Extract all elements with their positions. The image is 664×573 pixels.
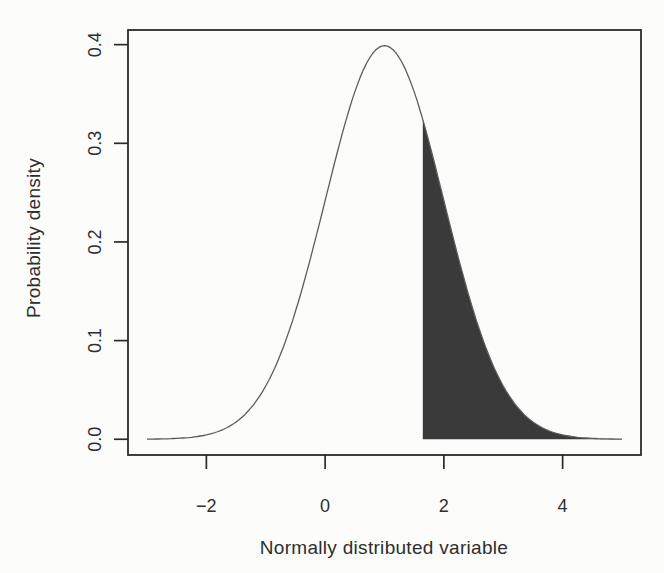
x-tick-label: 4	[558, 496, 568, 516]
x-tick-label: −2	[196, 496, 217, 516]
y-tick-label: 0.0	[85, 427, 105, 452]
density-plot-figure: −20240.00.10.20.30.4 Probability density…	[0, 0, 664, 573]
shaded-tail-area	[423, 120, 622, 440]
y-tick-label: 0.2	[85, 229, 105, 254]
y-tick-label: 0.3	[85, 131, 105, 156]
plot-canvas: −20240.00.10.20.30.4	[0, 0, 664, 573]
density-curve	[147, 46, 622, 439]
y-tick-label: 0.1	[85, 328, 105, 353]
x-axis-title: Normally distributed variable	[260, 537, 508, 559]
x-tick-label: 2	[439, 496, 449, 516]
y-axis-title: Probability density	[23, 158, 45, 318]
x-tick-label: 0	[320, 496, 330, 516]
y-tick-label: 0.4	[85, 32, 105, 57]
plot-border	[128, 30, 641, 455]
